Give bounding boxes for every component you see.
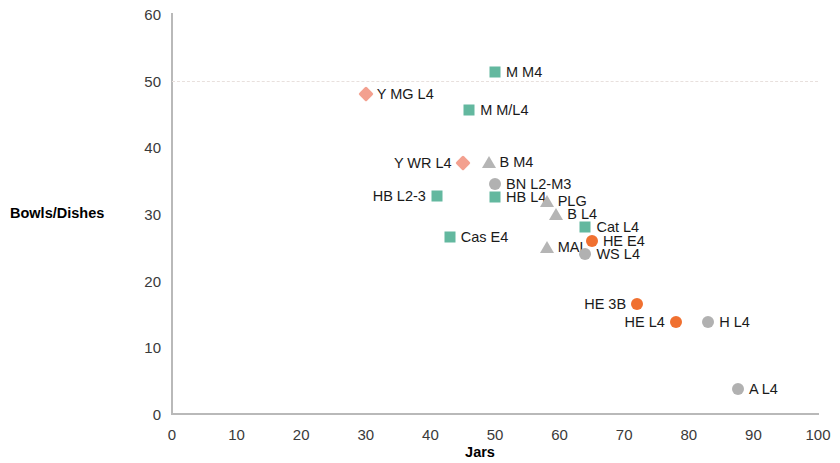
square-marker-icon xyxy=(431,191,442,202)
scatter-chart: Bowls/Dishes Jars 0102030405060010203040… xyxy=(0,0,840,463)
data-point-label: HE L4 xyxy=(625,315,665,330)
x-tick-label: 40 xyxy=(422,414,439,443)
triangle-marker-icon xyxy=(540,195,554,207)
x-tick-label: 20 xyxy=(293,414,310,443)
square-marker-icon xyxy=(444,232,455,243)
data-point-label: A L4 xyxy=(749,382,778,397)
x-tick-label: 30 xyxy=(357,414,374,443)
circle-marker-icon xyxy=(489,178,501,190)
y-tick-label: 20 xyxy=(144,272,172,289)
x-tick-label: 50 xyxy=(487,414,504,443)
square-marker-icon xyxy=(580,222,591,233)
circle-marker-icon xyxy=(732,383,744,395)
square-marker-icon xyxy=(490,67,501,78)
data-point-label: WS L4 xyxy=(596,247,640,262)
triangle-marker-icon xyxy=(540,241,554,253)
plot-area: 01020304050600102030405060708090100Y MG … xyxy=(172,14,818,414)
data-point-label: H L4 xyxy=(719,315,750,330)
y-axis-title: Bowls/Dishes xyxy=(10,205,104,221)
x-tick-label: 60 xyxy=(551,414,568,443)
circle-marker-icon xyxy=(586,235,598,247)
data-point-label: B L4 xyxy=(567,207,597,222)
diamond-marker-icon xyxy=(455,156,471,172)
data-point-label: Cas E4 xyxy=(461,230,509,245)
data-point-label: HE E4 xyxy=(603,233,645,248)
y-tick-label: 40 xyxy=(144,139,172,156)
x-tick-label: 0 xyxy=(168,414,176,443)
data-point-label: B M4 xyxy=(500,155,534,170)
gridline-50 xyxy=(172,81,818,82)
x-tick-label: 80 xyxy=(680,414,697,443)
circle-marker-icon xyxy=(631,298,643,310)
data-point-label: HE 3B xyxy=(584,297,626,312)
square-marker-icon xyxy=(490,192,501,203)
y-tick-label: 10 xyxy=(144,339,172,356)
x-tick-label: 100 xyxy=(805,414,830,443)
diamond-marker-icon xyxy=(358,86,374,102)
circle-marker-icon xyxy=(702,316,714,328)
x-tick-label: 90 xyxy=(745,414,762,443)
x-tick-label: 70 xyxy=(616,414,633,443)
x-tick-label: 10 xyxy=(228,414,245,443)
data-point-label: M M/L4 xyxy=(480,103,528,118)
y-tick-label: 60 xyxy=(144,6,172,23)
data-point-label: Y WR L4 xyxy=(394,156,452,171)
data-point-label: BN L2-M3 xyxy=(506,177,571,192)
circle-marker-icon xyxy=(579,248,591,260)
x-axis-title: Jars xyxy=(60,444,840,460)
triangle-marker-icon xyxy=(549,208,563,220)
data-point-label: HB L2-3 xyxy=(373,189,426,204)
square-marker-icon xyxy=(464,105,475,116)
y-tick-label: 30 xyxy=(144,206,172,223)
triangle-marker-icon xyxy=(482,156,496,168)
data-point-label: Y MG L4 xyxy=(377,87,434,102)
y-tick-label: 50 xyxy=(144,72,172,89)
circle-marker-icon xyxy=(670,316,682,328)
data-point-label: M M4 xyxy=(506,65,542,80)
